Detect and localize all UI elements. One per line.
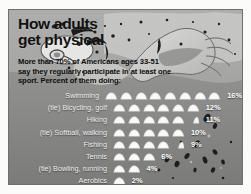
water-bump-icon [135,92,148,100]
page-title: How adults get physical [18,16,104,47]
chart-row-icons [113,175,128,185]
chart-row-label: (tie) Softball, walking [9,129,113,137]
water-bump-icon [113,153,126,161]
chart-row-value: 11% [206,116,220,124]
chart-row-icons [113,127,187,139]
water-bump-icon [187,104,200,112]
water-bump-icon [172,129,185,137]
chart-row-icons [105,90,223,102]
chart-row-icons [113,102,202,114]
water-bump-icon [120,92,133,100]
chart-row: Tennis6% [9,151,242,163]
water-bump-icon [105,92,118,100]
chart-row: Fishing9% [9,139,242,151]
water-bump-icon [113,129,126,137]
subtitle-line-2: say they regularly participate in at lea… [18,67,171,77]
water-bump-icon [128,153,141,161]
chart-row-label: Tennis [9,153,113,161]
chart-row-label: (tie) Bicycling, golf [9,104,113,112]
subtitle-line-1: More than 70% of Americans ages 33-51 [18,57,171,67]
water-bump-half-icon [187,116,200,124]
water-bump-icon [143,141,156,149]
chart-row-icons [113,139,187,151]
water-bump-icon [172,116,185,124]
chart-subtitle: More than 70% of Americans ages 33-51 sa… [18,57,171,86]
chart-row-value: 2% [132,177,143,185]
water-bump-icon [149,92,162,100]
chart-row-label: (tie) Bowling, running [9,165,113,173]
water-bump-icon [164,92,177,100]
infographic-root: How adults get physical More than 70% of… [0,0,251,194]
chart-row: (tie) Bicycling, golf12% [9,102,242,114]
chart-row-value: 10% [191,129,206,137]
water-bump-half-icon [172,141,185,149]
water-bump-icon [113,116,126,124]
chart-row: Aerobics2% [9,175,242,185]
chart-row-value: 4% [147,165,158,173]
water-bump-icon [172,104,185,112]
water-bump-icon [113,177,126,185]
chart-row-value: 6% [161,153,172,161]
water-bump-icon [113,165,126,173]
chart-row-value: 16% [227,92,242,100]
water-bump-icon [113,104,126,112]
chart-row: Swimming16% [9,90,242,102]
subtitle-line-3: sport. Percent of them doing: [18,76,171,86]
water-bump-icon [157,141,170,149]
chart-row-icons [113,151,157,163]
chart-row: (tie) Bowling, running4% [9,163,242,175]
water-bump-icon [194,92,207,100]
chart-row-icons [113,114,202,126]
chart-row-value: 12% [206,104,221,112]
water-bump-icon [128,129,141,137]
water-bump-icon [113,141,126,149]
chart-rows: Swimming16%(tie) Bicycling, golf12%Hikin… [9,90,242,185]
water-bump-icon [143,104,156,112]
chart-row-icons [113,163,143,175]
chart-row-label: Fishing [9,141,113,149]
water-bump-icon [143,153,156,161]
water-bump-icon [143,129,156,137]
water-bump-icon [157,104,170,112]
water-bump-icon [157,116,170,124]
chart-row: Hiking11% [9,114,242,126]
water-bump-icon [128,141,141,149]
water-bump-icon [143,116,156,124]
chart-row-label: Aerobics [9,177,113,185]
chart-row-value: 9% [191,141,202,149]
water-bump-icon [128,104,141,112]
headline-line-2: get physical [18,32,104,48]
water-bump-icon [128,116,141,124]
water-bump-icon [208,92,221,100]
chart-panel: How adults get physical More than 70% of… [8,9,243,185]
chart-row-label: Swimming [9,92,105,100]
headline-line-1: How adults [18,16,104,32]
water-bump-icon [128,165,141,173]
chart-row-label: Hiking [9,116,113,124]
water-bump-icon [157,129,170,137]
water-bump-icon [179,92,192,100]
chart-row: (tie) Softball, walking10% [9,127,242,139]
